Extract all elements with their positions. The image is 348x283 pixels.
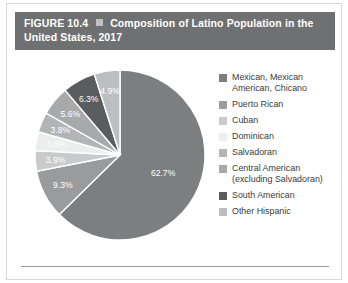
legend-item[interactable]: South American	[219, 190, 341, 201]
legend-color-swatch	[219, 133, 227, 141]
bottom-divider	[21, 266, 329, 267]
legend-item-label: Other Hispanic	[232, 206, 291, 217]
pie-slice-value-label: 5.6%	[61, 109, 81, 119]
legend-item-label: South American	[232, 190, 295, 201]
legend-item[interactable]: Puerto Rican	[219, 99, 341, 110]
legend-item[interactable]: Mexican, Mexican American, Chicano	[219, 72, 341, 93]
legend-item-label: Puerto Rican	[232, 99, 283, 110]
legend-item-label: Dominican	[232, 131, 274, 142]
legend-item[interactable]: Cuban	[219, 115, 341, 126]
pie-slice-value-label: 3.9%	[46, 155, 66, 165]
square-bullet-icon	[96, 19, 103, 26]
legend-color-swatch	[219, 74, 227, 82]
legend-item-label: Mexican, Mexican American, Chicano	[232, 72, 307, 93]
legend-color-swatch	[219, 117, 227, 125]
pie-slice-value-label: 62.7%	[151, 168, 176, 178]
figure-number: FIGURE 10.4	[24, 17, 88, 29]
legend-color-swatch	[219, 149, 227, 157]
legend-color-swatch	[219, 101, 227, 109]
pie-chart-svg: 62.7%9.3%3.9%3.6%3.8%5.6%6.3%4.9%	[7, 51, 213, 256]
pie-slice-value-label: 9.3%	[53, 180, 73, 190]
legend-item-label: Central American (excluding Salvadoran)	[232, 163, 323, 184]
pie-slice-value-label: 3.6%	[47, 139, 67, 149]
legend-item[interactable]: Dominican	[219, 131, 341, 142]
legend-item[interactable]: Central American (excluding Salvadoran)	[219, 163, 341, 184]
chart-legend: Mexican, Mexican American, ChicanoPuerto…	[219, 72, 341, 222]
legend-item-label: Salvadoran	[232, 147, 277, 158]
legend-color-swatch	[219, 192, 227, 200]
legend-color-swatch	[219, 208, 227, 216]
pie-slice-value-label: 6.3%	[79, 94, 99, 104]
legend-item[interactable]: Other Hispanic	[219, 206, 341, 217]
legend-item[interactable]: Salvadoran	[219, 147, 341, 158]
legend-color-swatch	[219, 165, 227, 173]
pie-slice-value-label: 3.8%	[51, 125, 71, 135]
pie-slice-value-label: 4.9%	[100, 86, 120, 96]
legend-item-label: Cuban	[232, 115, 258, 126]
figure-header-bar: FIGURE 10.4Composition of Latino Populat…	[15, 12, 335, 50]
figure-card: FIGURE 10.4Composition of Latino Populat…	[6, 3, 342, 280]
pie-chart: 62.7%9.3%3.9%3.6%3.8%5.6%6.3%4.9%	[7, 51, 213, 256]
